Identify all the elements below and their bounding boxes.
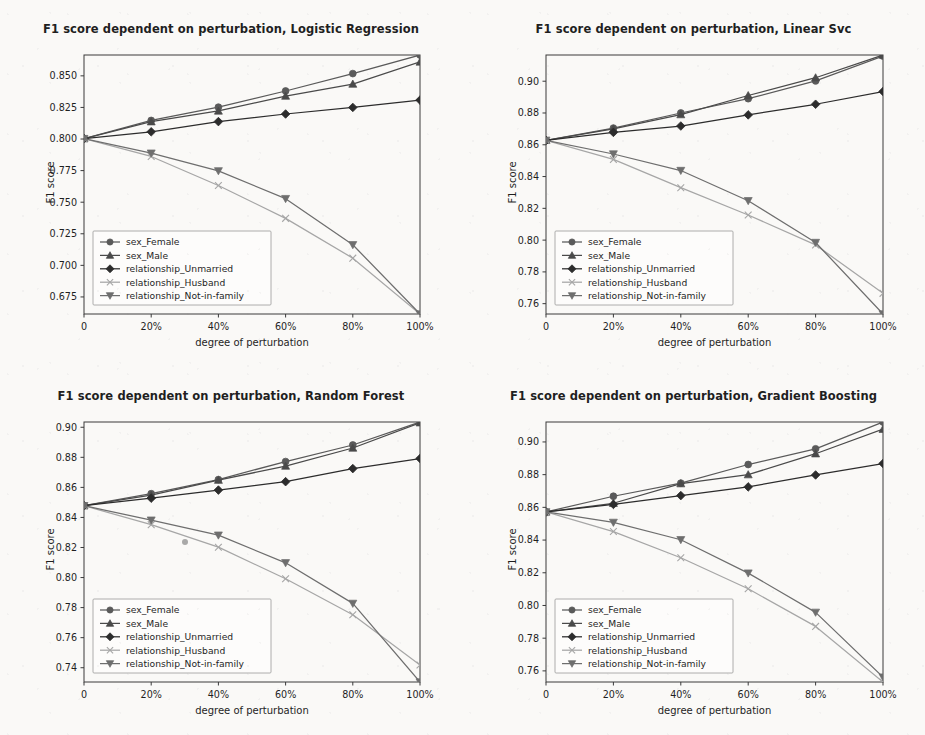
data-point-circle (880, 419, 887, 426)
data-point-triangle-down (677, 537, 685, 544)
data-point-diamond (416, 454, 425, 463)
plot-area: 0.760.780.800.820.840.860.880.90020%40%6… (462, 0, 925, 367)
x-axis-tick-label: 100% (406, 689, 433, 700)
data-point-diamond (214, 486, 223, 495)
data-point-diamond (677, 491, 686, 500)
data-point-diamond (609, 500, 618, 509)
legend-label[interactable]: relationship_Husband (126, 645, 225, 656)
y-axis-tick-label: 0.78 (518, 633, 539, 644)
series-line (546, 92, 883, 141)
data-point-diamond (281, 110, 290, 119)
x-axis-tick-label: 0 (543, 321, 549, 332)
data-point-triangle-down (744, 570, 752, 577)
x-axis-tick-label: 0 (543, 689, 549, 700)
data-point-diamond (349, 103, 358, 112)
y-axis-label: F1 score (45, 510, 56, 590)
y-axis-tick-label: 0.675 (50, 291, 77, 302)
legend[interactable]: sex_Femalesex_Malerelationship_Unmarried… (555, 599, 733, 673)
legend-marker-icon (107, 239, 113, 245)
series-line (84, 62, 420, 139)
legend-label[interactable]: relationship_Husband (588, 277, 687, 288)
data-point-circle (349, 70, 356, 77)
figure-grid: F1 score dependent on perturbation, Logi… (0, 0, 925, 735)
legend-label[interactable]: relationship_Husband (126, 277, 225, 288)
data-point-triangle-down (744, 198, 752, 205)
data-point-diamond (416, 96, 425, 105)
x-axis-tick-label: 60% (275, 321, 296, 332)
legend-label[interactable]: relationship_Unmarried (588, 263, 695, 274)
data-point-diamond (214, 117, 223, 126)
y-axis-tick-label: 0.82 (518, 567, 539, 578)
data-point-triangle-up (416, 58, 424, 65)
legend-label[interactable]: sex_Male (588, 618, 630, 629)
data-point-diamond (281, 477, 290, 486)
y-axis-tick-label: 0.725 (50, 228, 77, 239)
y-axis-tick-label: 0.86 (518, 139, 539, 150)
y-axis-tick-label: 0.76 (518, 298, 539, 309)
legend-label[interactable]: relationship_Not-in-family (588, 658, 707, 669)
plot-area: 0.760.780.800.820.840.860.880.90020%40%6… (462, 367, 925, 735)
x-axis-tick-label: 80% (805, 321, 826, 332)
chart-panel-bottom-left: F1 score dependent on perturbation, Rand… (0, 367, 462, 735)
x-axis-tick-label: 20% (141, 321, 162, 332)
legend-label[interactable]: relationship_Unmarried (588, 631, 695, 642)
x-axis-tick-label: 40% (208, 689, 229, 700)
y-axis-tick-label: 0.76 (518, 665, 539, 676)
y-axis-tick-label: 0.90 (518, 436, 539, 447)
y-axis-tick-label: 0.86 (56, 482, 77, 493)
x-axis-tick-label: 80% (805, 689, 826, 700)
y-axis-label: F1 score (507, 142, 518, 222)
x-axis-label: degree of perturbation (546, 705, 883, 716)
data-point-diamond (677, 122, 686, 131)
data-point-diamond (811, 100, 820, 109)
y-axis-tick-label: 0.700 (50, 260, 77, 271)
y-axis-tick-label: 0.88 (518, 469, 539, 480)
x-axis-tick-label: 40% (208, 321, 229, 332)
legend-label[interactable]: relationship_Not-in-family (588, 290, 707, 301)
y-axis-tick-label: 0.88 (56, 452, 77, 463)
legend-label[interactable]: relationship_Not-in-family (126, 290, 245, 301)
series-line (84, 100, 420, 139)
data-point-triangle-down (282, 560, 290, 567)
x-axis-tick-label: 20% (603, 321, 624, 332)
y-axis-tick-label: 0.86 (518, 502, 539, 513)
x-axis-tick-label: 80% (342, 689, 363, 700)
series-line (546, 55, 883, 140)
y-axis-tick-label: 0.74 (56, 662, 77, 673)
legend[interactable]: sex_Femalesex_Malerelationship_Unmarried… (555, 231, 733, 305)
x-axis-label: degree of perturbation (546, 337, 883, 348)
legend-label[interactable]: sex_Male (126, 250, 168, 261)
x-axis-tick-label: 100% (869, 689, 896, 700)
legend-label[interactable]: sex_Female (588, 604, 642, 615)
data-point-diamond (811, 471, 820, 480)
legend-label[interactable]: sex_Male (126, 618, 168, 629)
y-axis-tick-label: 0.76 (56, 632, 77, 643)
x-axis-tick-label: 80% (342, 321, 363, 332)
data-point-circle (745, 461, 752, 468)
legend-label[interactable]: relationship_Husband (588, 645, 687, 656)
legend-label[interactable]: sex_Female (588, 236, 642, 247)
legend-label[interactable]: sex_Female (126, 236, 180, 247)
legend-label[interactable]: relationship_Unmarried (126, 631, 233, 642)
legend-label[interactable]: sex_Female (126, 604, 180, 615)
x-axis-label: degree of perturbation (84, 705, 420, 716)
legend[interactable]: sex_Femalesex_Malerelationship_Unmarried… (93, 231, 271, 305)
legend-label[interactable]: sex_Male (588, 250, 630, 261)
legend-label[interactable]: relationship_Not-in-family (126, 658, 245, 669)
legend-label[interactable]: relationship_Unmarried (126, 263, 233, 274)
legend[interactable]: sex_Femalesex_Malerelationship_Unmarried… (93, 599, 271, 673)
data-point-diamond (879, 87, 888, 96)
data-point-diamond (349, 464, 358, 473)
y-axis-tick-label: 0.825 (50, 102, 77, 113)
x-axis-tick-label: 0 (81, 689, 87, 700)
legend-marker-icon (107, 607, 113, 613)
scan-speck (182, 539, 188, 545)
x-axis-tick-label: 60% (275, 689, 296, 700)
y-axis-tick-label: 0.90 (518, 76, 539, 87)
legend-marker-icon (569, 239, 575, 245)
y-axis-tick-label: 0.82 (56, 542, 77, 553)
chart-panel-top-left: F1 score dependent on perturbation, Logi… (0, 0, 462, 367)
data-point-triangle-down (282, 195, 290, 202)
x-axis-tick-label: 20% (141, 689, 162, 700)
series-line (546, 56, 883, 140)
